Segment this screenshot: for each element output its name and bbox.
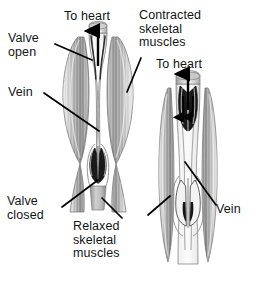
label-vein-right: Vein	[216, 203, 241, 217]
figure-canvas: Valve open To heart Vein Valve closed Co…	[0, 0, 258, 282]
label-relaxed-muscles: Relaxed skeletal muscles	[73, 220, 120, 261]
label-contracted-muscles: Contracted skeletal muscles	[139, 9, 201, 50]
right-backflow-arrow-left	[183, 96, 184, 117]
label-valve-closed: Valve closed	[7, 195, 44, 222]
label-vein-left: Vein	[8, 86, 33, 100]
left-vein-lower	[90, 186, 106, 210]
label-to-heart-left: To heart	[64, 10, 110, 24]
right-backflow-arrow-right	[192, 96, 193, 117]
label-to-heart-right: To heart	[156, 58, 202, 72]
label-valve-open: Valve open	[8, 32, 39, 59]
